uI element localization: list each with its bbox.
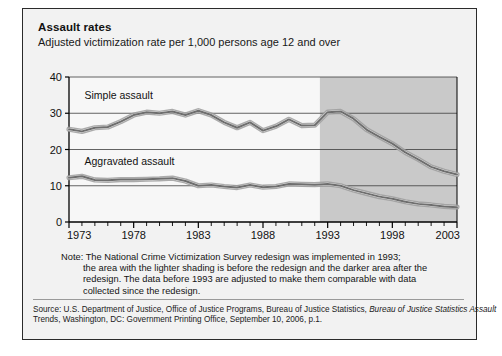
x-tick-label-1993: 1993 bbox=[315, 229, 339, 239]
page-title: Assault rates bbox=[38, 21, 463, 34]
figure-note: Note: The National Crime Victimization S… bbox=[61, 252, 461, 297]
y-tick-label-20: 20 bbox=[50, 144, 62, 156]
chart-plot-area: 0102030401973197819831988199319982003Sim… bbox=[23, 59, 478, 239]
source-line-2: Trends, Washington, DC: Government Print… bbox=[33, 315, 468, 325]
figure-panel: Assault rates Adjusted victimization rat… bbox=[22, 8, 477, 340]
x-tick-label-1998: 1998 bbox=[380, 229, 404, 239]
x-tick-label-2003: 2003 bbox=[436, 229, 460, 239]
series-label-simple-assault: Simple assault bbox=[85, 89, 153, 101]
x-tick-label-1983: 1983 bbox=[186, 229, 210, 239]
note-line-4: collected since the redesign. bbox=[61, 286, 461, 297]
note-line-2: the area with the lighter shading is bef… bbox=[61, 263, 461, 274]
figure-source: Source: U.S. Department of Justice, Offi… bbox=[33, 305, 468, 325]
source-text-italic: Bureau of Justice Statistics Assault bbox=[369, 305, 496, 314]
y-tick-label-40: 40 bbox=[50, 71, 62, 83]
source-line-1: Source: U.S. Department of Justice, Offi… bbox=[33, 305, 468, 315]
source-text-plain: Source: U.S. Department of Justice, Offi… bbox=[33, 305, 369, 314]
figure-header: Assault rates Adjusted victimization rat… bbox=[38, 21, 463, 49]
y-tick-label-30: 30 bbox=[50, 107, 62, 119]
note-line-1: Note: The National Crime Victimization S… bbox=[61, 252, 461, 263]
x-tick-label-1978: 1978 bbox=[121, 229, 145, 239]
x-tick-label-1973: 1973 bbox=[67, 229, 91, 239]
note-divider bbox=[33, 299, 464, 300]
series-label-aggravated-assault: Aggravated assault bbox=[85, 155, 175, 167]
y-tick-label-10: 10 bbox=[50, 180, 62, 192]
chart-subtitle: Adjusted victimization rate per 1,000 pe… bbox=[38, 36, 463, 49]
y-tick-label-0: 0 bbox=[56, 216, 62, 228]
assault-rates-line-chart: 0102030401973197819831988199319982003Sim… bbox=[23, 59, 478, 239]
x-tick-label-1988: 1988 bbox=[251, 229, 275, 239]
note-line-3: redesign. The data before 1993 are adjus… bbox=[61, 274, 461, 285]
